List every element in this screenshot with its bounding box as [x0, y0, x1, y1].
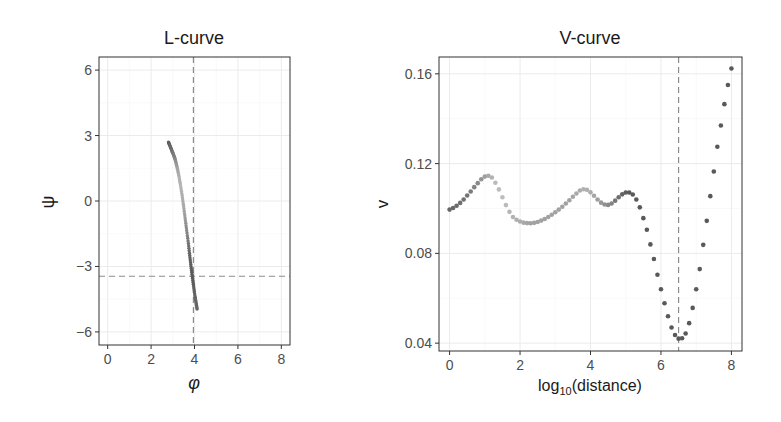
- data-point: [490, 175, 495, 180]
- y-tick-label: −6: [76, 324, 92, 340]
- data-point: [638, 205, 643, 210]
- data-point: [468, 189, 473, 194]
- v-curve-x-label-rest: (distance): [572, 377, 642, 394]
- data-point: [567, 198, 572, 203]
- l-curve-x-axis: 02468: [104, 345, 286, 367]
- l-curve-chart: L-curve 630−3−6 02468 φ ψ: [38, 28, 290, 393]
- y-tick-label: 3: [84, 128, 92, 144]
- data-point: [461, 197, 466, 202]
- data-point: [694, 287, 699, 292]
- l-curve-title: L-curve: [164, 28, 224, 48]
- data-point: [715, 144, 720, 149]
- v-curve-x-label: log10(distance): [538, 377, 642, 397]
- data-point: [472, 185, 477, 190]
- data-point: [556, 207, 561, 212]
- data-point: [641, 216, 646, 221]
- data-point: [458, 201, 463, 206]
- v-curve-x-label-base: log: [538, 377, 559, 394]
- data-point: [704, 219, 709, 224]
- data-point: [195, 307, 198, 310]
- y-tick-label: 0.16: [405, 66, 432, 82]
- data-point: [497, 187, 502, 192]
- data-point: [701, 243, 706, 248]
- v-curve-x-label-subscript: 10: [559, 385, 571, 397]
- data-point: [645, 228, 650, 233]
- y-tick-label: 0.08: [405, 245, 432, 261]
- x-tick-label: 2: [516, 357, 524, 373]
- data-point: [729, 66, 734, 71]
- data-point: [588, 190, 593, 195]
- x-tick-label: 6: [234, 351, 242, 367]
- data-point: [666, 314, 671, 319]
- x-tick-label: 8: [728, 357, 736, 373]
- v-curve-y-label: v: [373, 199, 392, 208]
- data-point: [712, 169, 717, 174]
- y-tick-label: 0: [84, 193, 92, 209]
- y-tick-label: 6: [84, 62, 92, 78]
- data-point: [722, 102, 727, 107]
- data-point: [574, 191, 579, 196]
- data-point: [697, 267, 702, 272]
- y-tick-label: 0.12: [405, 156, 432, 172]
- data-point: [609, 201, 614, 206]
- data-point: [630, 192, 635, 197]
- x-tick-label: 0: [104, 351, 112, 367]
- l-curve-y-label: ψ: [38, 196, 58, 209]
- data-point: [595, 197, 600, 202]
- l-curve-x-label: φ: [188, 373, 200, 393]
- data-point: [687, 321, 692, 326]
- y-tick-label: 0.04: [405, 335, 432, 351]
- data-point: [673, 333, 678, 338]
- data-point: [669, 325, 674, 330]
- data-point: [613, 198, 618, 203]
- data-point: [504, 203, 509, 208]
- data-point: [680, 336, 685, 341]
- figure: L-curve 630−3−6 02468 φ ψ V-curve 0.160.…: [0, 0, 781, 422]
- x-tick-label: 0: [446, 357, 454, 373]
- v-curve-title: V-curve: [559, 28, 620, 48]
- data-point: [708, 194, 713, 199]
- l-curve-y-axis: 630−3−6: [76, 62, 99, 340]
- data-point: [592, 193, 597, 198]
- data-point: [465, 193, 470, 198]
- v-curve-grid: [439, 57, 742, 351]
- data-point: [690, 306, 695, 311]
- data-point: [571, 195, 576, 200]
- data-point: [655, 272, 660, 277]
- data-point: [652, 257, 657, 262]
- x-tick-label: 8: [277, 351, 285, 367]
- y-tick-label: −3: [76, 258, 92, 274]
- v-curve-x-axis: 02468: [446, 351, 736, 373]
- data-point: [726, 83, 731, 88]
- x-tick-label: 4: [587, 357, 595, 373]
- data-point: [648, 242, 653, 247]
- data-point: [500, 195, 505, 200]
- x-tick-label: 2: [147, 351, 155, 367]
- v-curve-y-axis: 0.160.120.080.04: [405, 66, 439, 351]
- data-point: [662, 301, 667, 306]
- data-point: [659, 287, 664, 292]
- data-point: [560, 204, 565, 209]
- data-point: [475, 181, 480, 186]
- x-tick-label: 4: [191, 351, 199, 367]
- data-point: [616, 195, 621, 200]
- data-point: [454, 203, 459, 208]
- data-point: [719, 123, 724, 128]
- v-curve-chart: V-curve 0.160.120.080.04 02468 log10(dis…: [373, 28, 742, 397]
- data-point: [634, 197, 639, 202]
- data-point: [507, 210, 512, 215]
- data-point: [493, 180, 498, 185]
- x-tick-label: 6: [657, 357, 665, 373]
- l-curve-points: [167, 140, 199, 310]
- data-point: [683, 331, 688, 336]
- data-point: [564, 201, 569, 206]
